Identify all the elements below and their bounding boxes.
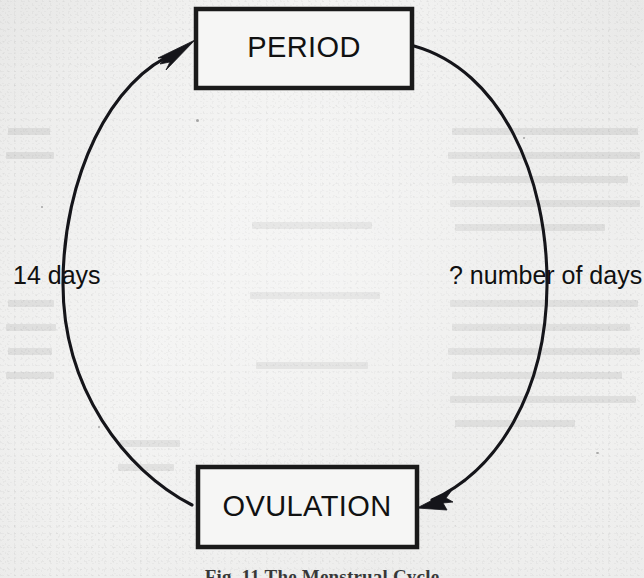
node-period: PERIOD (196, 9, 412, 88)
edge-label-number-of-days: ? number of days (449, 261, 642, 289)
node-ovulation: OVULATION (198, 467, 417, 547)
ovulation-label: OVULATION (222, 490, 391, 522)
cycle-diagram: PERIOD OVULATION 14 days ? number of day… (0, 0, 644, 578)
edge-label-14-days: 14 days (13, 261, 101, 289)
period-label: PERIOD (247, 31, 361, 63)
arrowhead-into-ovulation (417, 490, 453, 510)
arrowhead-into-period (158, 40, 195, 70)
figure-caption: Fig. 11 The Menstrual Cycle (0, 566, 644, 578)
figure-page: PERIOD OVULATION 14 days ? number of day… (0, 0, 644, 578)
